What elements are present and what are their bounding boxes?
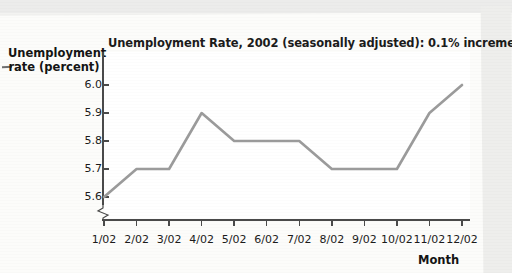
- series-layer: [0, 0, 512, 273]
- chart-figure: Unemployment Rate, 2002 (seasonally adju…: [0, 0, 512, 273]
- unemployment-rate-line: [104, 85, 462, 197]
